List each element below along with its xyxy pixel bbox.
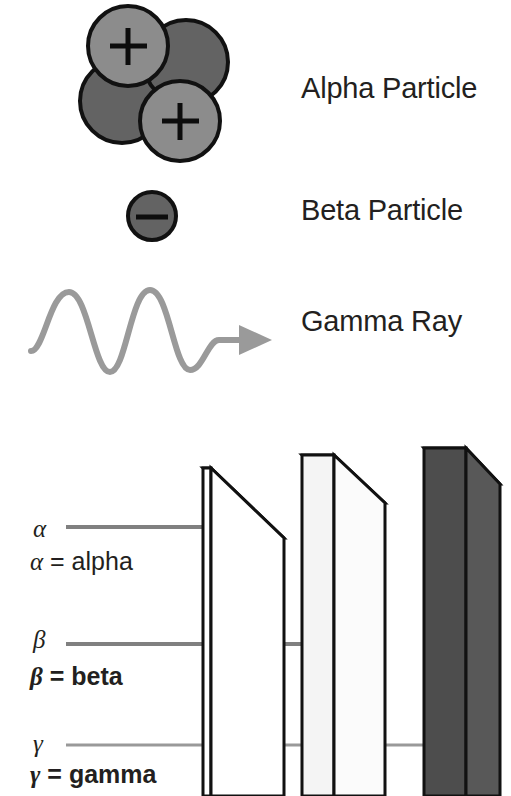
ray-legend-symbol-beta: β — [30, 663, 43, 690]
plus-sign-bottom — [162, 103, 199, 140]
nucleon-proton-bottom — [140, 81, 220, 161]
ray-legend-gamma: γ = gamma — [30, 762, 156, 787]
barrier-2-top-face — [302, 455, 385, 503]
barrier-2-aluminum — [302, 455, 385, 796]
barrier-3-lead — [424, 448, 500, 796]
gamma-ray-wave-icon — [31, 290, 272, 372]
barrier-1-side-face — [211, 468, 284, 796]
ray-legend-text-gamma: = gamma — [47, 760, 156, 788]
barrier-3-front-face — [424, 448, 466, 796]
barrier-1-paper — [203, 468, 284, 796]
legend-label-alpha-particle: Alpha Particle — [301, 74, 477, 103]
ray-tick-symbol-alpha: α — [33, 516, 46, 541]
plus-sign-top — [110, 28, 147, 65]
barrier-1-top-face — [203, 468, 284, 538]
ray-tick-symbol-gamma: γ — [33, 731, 43, 756]
ray-legend-text-alpha: = alpha — [50, 547, 133, 575]
ray-tick-symbol-beta: β — [33, 627, 45, 652]
wave-path — [31, 290, 242, 372]
barrier-2-front-face — [302, 455, 334, 796]
ray-legend-symbol-gamma: γ — [30, 761, 40, 788]
electron-body — [128, 192, 176, 240]
nucleon-neutron-left — [80, 59, 164, 143]
barrier-1-front-face — [203, 468, 211, 796]
barrier-2-side-face — [334, 455, 385, 796]
radiation-figure: Alpha Particle Beta Particle Gamma Ray — [0, 0, 511, 796]
wave-arrowhead — [239, 325, 272, 355]
legend-label-beta-particle: Beta Particle — [301, 196, 463, 225]
beta-particle-icon — [128, 192, 176, 240]
barrier-3-top-face — [424, 448, 500, 484]
legend-label-gamma-ray: Gamma Ray — [301, 307, 462, 336]
ray-legend-alpha: α = alpha — [30, 549, 133, 574]
nucleon-neutron-right — [144, 20, 228, 104]
ray-legend-text-beta: = beta — [50, 662, 123, 690]
ray-legend-symbol-alpha: α — [30, 548, 43, 575]
nucleon-proton-top — [88, 6, 168, 86]
alpha-particle-icon — [80, 6, 228, 161]
ray-legend-beta: β = beta — [30, 664, 123, 689]
barrier-3-side-face — [466, 448, 500, 796]
